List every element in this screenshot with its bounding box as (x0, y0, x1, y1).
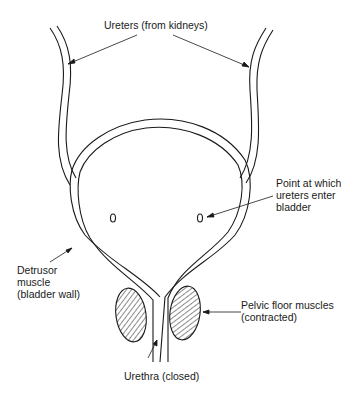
right-pelvic-floor-muscle (166, 284, 203, 342)
label-ureters: Ureters (from kidneys) (104, 19, 208, 31)
label-urethra: Urethra (closed) (124, 370, 199, 382)
label-entry-point: Point at which ureters enter bladder (276, 177, 341, 213)
bladder-inner-wall (78, 127, 242, 362)
label-pelvic-floor: Pelvic floor muscles (contracted) (241, 299, 334, 323)
entry-point-pointer (207, 196, 273, 217)
right-ureter-opening (198, 214, 203, 222)
bladder-outer-wall (70, 119, 250, 362)
left-ureter (50, 26, 76, 185)
ureter-pointer-left (68, 35, 137, 64)
ureter-pointer-right (173, 35, 249, 67)
left-pelvic-floor-muscle (112, 286, 149, 344)
label-detrusor: Detrusor muscle (bladder wall) (17, 264, 80, 300)
left-ureter-opening (111, 214, 116, 222)
